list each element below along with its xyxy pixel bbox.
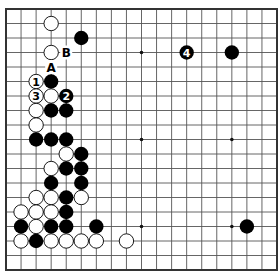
black-stone	[74, 176, 88, 190]
go-board: 4132 AB	[0, 0, 280, 279]
white-stone: 1	[29, 74, 43, 88]
black-stone	[240, 219, 254, 233]
white-stone	[59, 234, 73, 248]
black-stone	[59, 205, 73, 219]
black-stone	[29, 132, 43, 146]
white-stone	[44, 161, 58, 175]
black-stone	[44, 219, 58, 233]
black-stone	[44, 74, 58, 88]
white-stone	[74, 234, 88, 248]
hoshi-point	[140, 225, 144, 229]
black-stone	[44, 103, 58, 117]
hoshi-point	[230, 225, 234, 229]
white-stone	[44, 205, 58, 219]
hoshi-point	[230, 138, 234, 142]
black-stone: 4	[179, 45, 193, 59]
white-stone	[44, 234, 58, 248]
point-label-a: A	[47, 61, 57, 75]
white-stone	[44, 89, 58, 103]
move-number: 4	[183, 47, 191, 60]
move-number: 2	[62, 90, 70, 103]
white-stone	[44, 45, 58, 59]
white-stone	[44, 16, 58, 30]
black-stone	[59, 219, 73, 233]
white-stone	[74, 190, 88, 204]
white-stone	[29, 103, 43, 117]
white-stone	[29, 219, 43, 233]
black-stone	[44, 176, 58, 190]
black-stone: 2	[59, 89, 73, 103]
white-stone	[29, 205, 43, 219]
black-stone	[59, 161, 73, 175]
black-stone	[89, 219, 103, 233]
white-stone	[119, 234, 133, 248]
white-stone	[29, 118, 43, 132]
stones-layer: 4132	[14, 16, 254, 248]
black-stone	[74, 31, 88, 45]
black-stone	[59, 190, 73, 204]
white-stone	[89, 234, 103, 248]
move-number: 3	[32, 90, 40, 103]
black-stone	[74, 161, 88, 175]
black-stone	[59, 103, 73, 117]
hoshi-point	[140, 138, 144, 142]
white-stone	[14, 234, 28, 248]
white-stone	[59, 147, 73, 161]
white-stone	[44, 190, 58, 204]
black-stone	[225, 45, 239, 59]
black-stone	[44, 132, 58, 146]
move-number: 1	[32, 76, 40, 89]
black-stone	[14, 219, 28, 233]
white-stone	[29, 190, 43, 204]
black-stone	[59, 132, 73, 146]
point-label-b: B	[62, 46, 71, 60]
black-stone	[29, 234, 43, 248]
white-stone	[14, 205, 28, 219]
black-stone	[74, 147, 88, 161]
white-stone: 3	[29, 89, 43, 103]
hoshi-point	[140, 51, 144, 55]
